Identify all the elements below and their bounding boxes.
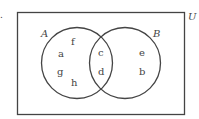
element-g: g [57, 66, 64, 77]
universe-label: U [188, 11, 197, 22]
margin-mark: . [0, 10, 3, 20]
element-f: f [71, 36, 76, 47]
venn-diagram: . U A B f a g h c d e b [0, 0, 199, 119]
element-e: e [139, 47, 145, 58]
set-a-label: A [40, 28, 48, 39]
element-h: h [71, 77, 78, 88]
element-c: c [98, 47, 104, 58]
element-a: a [58, 48, 64, 59]
element-d: d [98, 66, 105, 77]
set-b-label: B [152, 28, 160, 39]
element-b: b [139, 66, 145, 77]
set-b-circle [90, 28, 161, 99]
